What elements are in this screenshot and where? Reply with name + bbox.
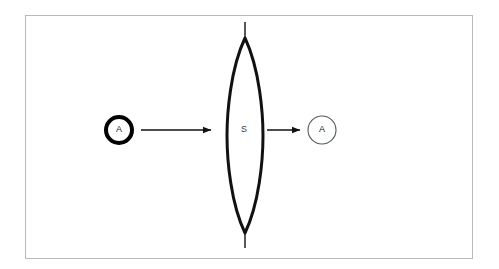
figure-canvas: A S A <box>0 0 499 269</box>
image-circle-label: A <box>307 125 337 134</box>
biconvex-lens-shape <box>227 38 263 233</box>
lens-ray-diagram <box>0 0 499 269</box>
object-circle-label: A <box>104 125 134 134</box>
lens-label: S <box>229 125 259 134</box>
